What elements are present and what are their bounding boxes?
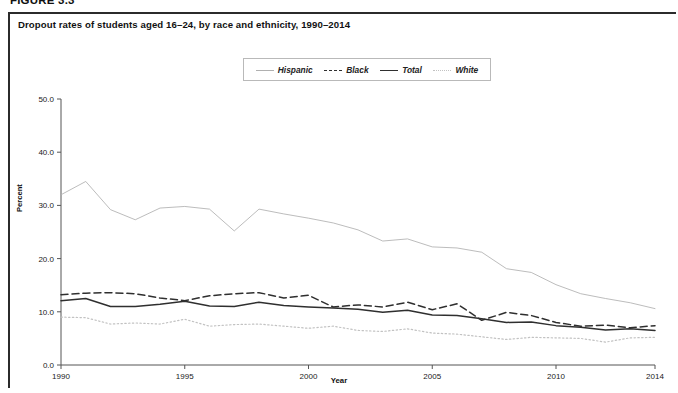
figure-container: FIGURE 3.3 Dropout rates of students age… [0,0,678,393]
x-tick-label: 2010 [547,372,565,381]
x-axis: 199019952000200520102014 [52,365,664,381]
y-tick-label: 10.0 [38,308,54,317]
y-axis: 0.010.020.030.040.050.0 [38,95,61,370]
series-line-black [61,293,655,328]
y-tick-label: 0.0 [43,361,55,370]
series-line-white [61,317,655,342]
data-series-group [61,181,655,342]
chart-plot-area: 0.010.020.030.040.050.0 1990199520002005… [0,0,678,393]
y-tick-label: 30.0 [38,201,54,210]
y-tick-label: 40.0 [38,148,54,157]
x-tick-label: 2005 [423,372,441,381]
x-tick-label: 1995 [176,372,194,381]
x-tick-label: 2014 [646,372,664,381]
x-tick-label: 2000 [300,372,318,381]
x-tick-label: 1990 [52,372,70,381]
y-tick-label: 20.0 [38,255,54,264]
y-tick-label: 50.0 [38,95,54,104]
series-line-total [61,299,655,331]
series-line-hispanic [61,181,655,308]
